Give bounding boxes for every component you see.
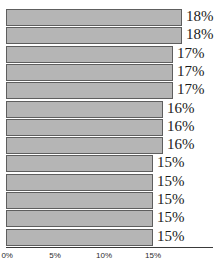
bar[interactable] bbox=[6, 192, 153, 209]
bar-value-label: 15% bbox=[157, 227, 185, 246]
bar[interactable] bbox=[6, 9, 182, 26]
bar-value-label: 17% bbox=[177, 62, 205, 81]
x-tick-label: 0% bbox=[1, 250, 13, 261]
bar-row[interactable]: 15% bbox=[0, 155, 219, 172]
bar-row[interactable]: 15% bbox=[0, 192, 219, 209]
bar-row[interactable]: 18% bbox=[0, 9, 219, 26]
bar[interactable] bbox=[6, 137, 163, 154]
bar[interactable] bbox=[6, 27, 182, 44]
bar-value-label: 18% bbox=[186, 7, 214, 26]
bar-row[interactable]: 16% bbox=[0, 101, 219, 118]
bar[interactable] bbox=[6, 46, 173, 63]
plot-area: 18%18%17%17%17%16%16%16%15%15%15%15%15% bbox=[0, 0, 219, 248]
bar-row[interactable]: 17% bbox=[0, 64, 219, 81]
bar-value-label: 15% bbox=[157, 208, 185, 227]
bar[interactable] bbox=[6, 174, 153, 191]
x-tick-label: 10% bbox=[96, 250, 112, 261]
bar-row[interactable]: 16% bbox=[0, 119, 219, 136]
bar-value-label: 17% bbox=[177, 80, 205, 99]
bar[interactable] bbox=[6, 119, 163, 136]
bar-chart: 18%18%17%17%17%16%16%16%15%15%15%15%15% … bbox=[0, 0, 219, 271]
bar[interactable] bbox=[6, 155, 153, 172]
bar-value-label: 18% bbox=[186, 25, 214, 44]
bar-row[interactable]: 15% bbox=[0, 210, 219, 227]
x-tick-label: 15% bbox=[145, 250, 161, 261]
bar[interactable] bbox=[6, 64, 173, 81]
bar[interactable] bbox=[6, 82, 173, 99]
bar-value-label: 16% bbox=[167, 117, 195, 136]
bar-value-label: 15% bbox=[157, 153, 185, 172]
x-axis-tick-labels: 0%5%10%15% bbox=[0, 250, 219, 264]
bar-row[interactable]: 18% bbox=[0, 27, 219, 44]
bar-row[interactable]: 15% bbox=[0, 174, 219, 191]
bar-value-label: 15% bbox=[157, 172, 185, 191]
x-axis-line bbox=[6, 247, 213, 248]
x-tick-label: 5% bbox=[49, 250, 61, 261]
bar-value-label: 17% bbox=[177, 44, 205, 63]
bar-value-label: 15% bbox=[157, 190, 185, 209]
bar-row[interactable]: 17% bbox=[0, 82, 219, 99]
bar-row[interactable]: 16% bbox=[0, 137, 219, 154]
bar-row[interactable]: 17% bbox=[0, 46, 219, 63]
bar[interactable] bbox=[6, 229, 153, 246]
bar[interactable] bbox=[6, 210, 153, 227]
bar[interactable] bbox=[6, 101, 163, 118]
bar-row[interactable]: 15% bbox=[0, 229, 219, 246]
bar-value-label: 16% bbox=[167, 135, 195, 154]
bar-value-label: 16% bbox=[167, 99, 195, 118]
